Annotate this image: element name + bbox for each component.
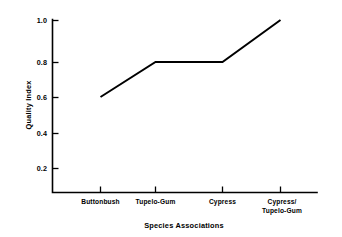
y-tick-label-0.8: 0.8 xyxy=(37,58,47,67)
line-chart: 1.0 0.8 0.6 0.4 0.2 Buttonbush Tupelo-Gu… xyxy=(0,0,342,237)
x-tick-label-cypress-tupelo-gum-line1: Cypress/ xyxy=(267,198,296,206)
x-tick-label-cypress-tupelo-gum-line2: Tupelo-Gum xyxy=(262,207,302,215)
y-tick-label-0.2: 0.2 xyxy=(37,164,47,173)
x-tick-label-cypress: Cypress xyxy=(209,198,236,206)
x-tick-label-tupelo-gum: Tupelo-Gum xyxy=(136,198,176,206)
y-tick-label-1.0: 1.0 xyxy=(37,16,47,25)
y-tick-label-0.6: 0.6 xyxy=(37,93,47,102)
chart-figure: 1.0 0.8 0.6 0.4 0.2 Buttonbush Tupelo-Gu… xyxy=(0,0,342,237)
y-tick-label-0.4: 0.4 xyxy=(37,129,47,138)
x-axis-title: Species Associations xyxy=(144,221,224,230)
y-axis-title: Quality Index xyxy=(24,80,33,130)
x-tick-label-buttonbush: Buttonbush xyxy=(81,198,120,205)
